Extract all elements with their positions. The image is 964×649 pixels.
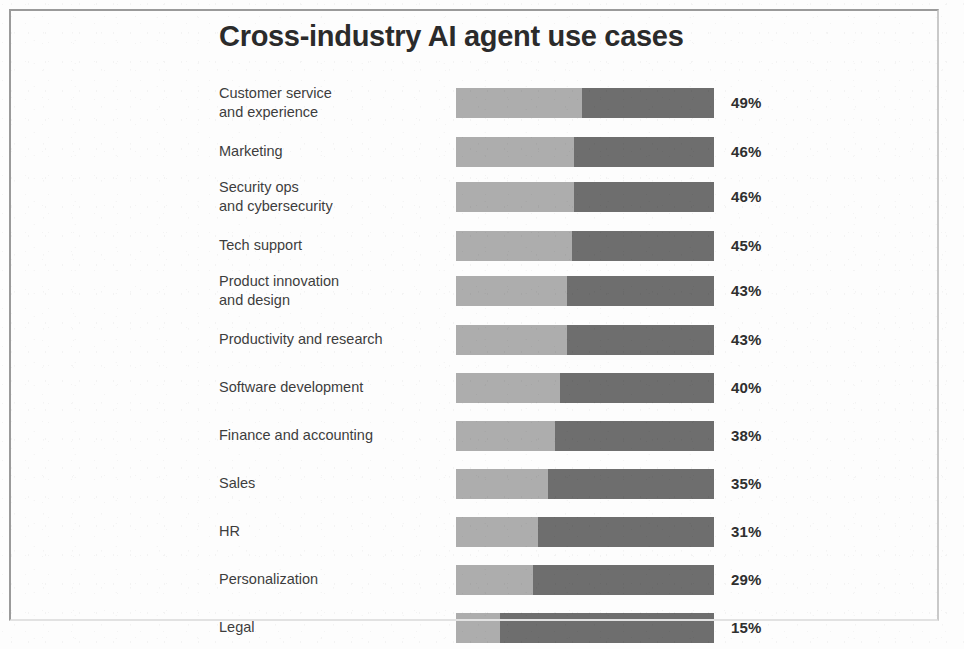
category-label-line1: Productivity and research — [219, 331, 383, 347]
category-label-line1: Software development — [219, 379, 363, 395]
scanned-page: Cross-industry AI agent use cases Custom… — [0, 0, 964, 649]
bar-track — [456, 421, 714, 451]
bar-value-segment — [456, 182, 574, 212]
bar-track — [456, 565, 714, 595]
bar-track — [456, 182, 714, 212]
category-label: Marketing — [219, 142, 444, 161]
bar-value-segment — [456, 276, 567, 306]
bar-value-segment — [456, 325, 567, 355]
chart-title: Cross-industry AI agent use cases — [219, 20, 683, 53]
bar-value-label: 29% — [731, 571, 762, 588]
bar-track — [456, 469, 714, 499]
bar-track — [456, 137, 714, 167]
category-label: Productivity and research — [219, 330, 444, 349]
chart-figure: Cross-industry AI agent use cases Custom… — [0, 0, 964, 649]
category-label-line1: Marketing — [219, 143, 283, 159]
category-label-line2: and experience — [219, 103, 444, 122]
bar-value-segment — [456, 231, 572, 261]
bar-value-label: 40% — [731, 379, 762, 396]
bar-value-segment — [456, 565, 533, 595]
bar-value-segment — [456, 373, 560, 403]
bar-track — [456, 517, 714, 547]
category-label-line2: and cybersecurity — [219, 197, 444, 216]
category-label-line1: Finance and accounting — [219, 427, 373, 443]
category-label-line1: Product innovation — [219, 273, 339, 289]
bar-track — [456, 231, 714, 261]
category-label-line1: Tech support — [219, 237, 302, 253]
bar-value-label: 49% — [731, 94, 762, 111]
bar-value-label: 46% — [731, 143, 762, 160]
bar-value-label: 45% — [731, 237, 762, 254]
bar-value-segment — [456, 137, 574, 167]
category-label: Legal — [219, 618, 444, 637]
category-label: Personalization — [219, 570, 444, 589]
bar-track — [456, 88, 714, 118]
category-label: Sales — [219, 474, 444, 493]
category-label: Security opsand cybersecurity — [219, 178, 444, 216]
category-label-line1: Legal — [219, 619, 254, 635]
category-label-line1: HR — [219, 523, 240, 539]
bar-value-label: 31% — [731, 523, 762, 540]
bar-value-label: 43% — [731, 331, 762, 348]
category-label: HR — [219, 522, 444, 541]
category-label: Tech support — [219, 236, 444, 255]
bar-value-segment — [456, 613, 500, 643]
bar-value-label: 35% — [731, 475, 762, 492]
bar-value-segment — [456, 421, 555, 451]
bar-track — [456, 325, 714, 355]
bar-value-segment — [456, 517, 538, 547]
category-label: Finance and accounting — [219, 426, 444, 445]
category-label-line1: Security ops — [219, 179, 299, 195]
bar-value-label: 15% — [731, 619, 762, 636]
bar-value-segment — [456, 469, 548, 499]
bar-value-label: 46% — [731, 188, 762, 205]
category-label: Product innovationand design — [219, 272, 444, 310]
bar-value-label: 43% — [731, 282, 762, 299]
category-label-line1: Sales — [219, 475, 255, 491]
category-label-line1: Customer service — [219, 85, 332, 101]
category-label: Software development — [219, 378, 444, 397]
bar-value-segment — [456, 88, 582, 118]
category-label: Customer serviceand experience — [219, 84, 444, 122]
bar-track — [456, 613, 714, 643]
category-label-line1: Personalization — [219, 571, 318, 587]
bar-track — [456, 373, 714, 403]
category-label-line2: and design — [219, 291, 444, 310]
bar-value-label: 38% — [731, 427, 762, 444]
bar-track — [456, 276, 714, 306]
